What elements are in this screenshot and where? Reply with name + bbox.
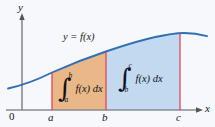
x-axis-arrow xyxy=(196,107,203,112)
integrand-a-to-b: f(x) dx xyxy=(72,83,103,94)
x-tick-label-b: b xyxy=(102,112,108,123)
integral-lower-limit-b: b xyxy=(125,85,129,94)
integrand-b-to-c: f(x) dx xyxy=(132,73,163,84)
y-axis-arrow xyxy=(19,13,24,20)
curve-label: y = f(x) xyxy=(63,32,95,43)
figure-canvas xyxy=(0,0,215,127)
origin-label: 0 xyxy=(9,111,15,122)
integral-figure: y x 0 a b c y = f(x) ∫baf(x) dx ∫cbf(x) … xyxy=(0,0,215,127)
x-axis-label: x xyxy=(205,103,210,114)
integral-expression-a-to-b: ∫baf(x) dx xyxy=(58,78,103,97)
integral-lower-limit-a: a xyxy=(65,95,69,104)
x-tick-label-c: c xyxy=(176,112,181,123)
integral-upper-limit-c: c xyxy=(129,61,132,70)
x-tick-label-a: a xyxy=(48,112,54,123)
y-axis-label: y xyxy=(18,2,23,13)
integral-upper-limit-b: b xyxy=(69,71,73,80)
integral-expression-b-to-c: ∫cbf(x) dx xyxy=(118,68,163,87)
